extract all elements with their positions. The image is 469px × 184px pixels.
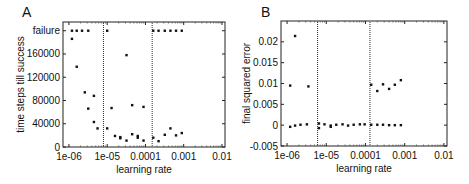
data-point	[289, 126, 291, 128]
data-point	[152, 136, 154, 138]
data-point	[394, 84, 396, 86]
data-point	[294, 35, 296, 37]
data-point	[110, 107, 112, 109]
y-tick-label: 80000	[32, 95, 60, 106]
data-point	[359, 123, 361, 125]
data-point	[93, 95, 95, 97]
data-point	[388, 88, 390, 90]
data-point	[131, 133, 133, 135]
data-point	[299, 124, 301, 126]
data-point	[400, 79, 402, 81]
data-point	[164, 134, 166, 136]
x-tick-label: 1e-05	[94, 151, 120, 162]
data-point	[307, 85, 309, 87]
plot-frame	[63, 22, 225, 147]
data-point	[131, 104, 133, 106]
data-point	[306, 123, 308, 125]
y-tick-label: 0.01	[259, 78, 279, 89]
data-point	[114, 135, 116, 137]
data-point	[157, 30, 159, 32]
data-point	[93, 121, 95, 123]
data-point	[84, 91, 86, 93]
y-tick-label: failure	[33, 25, 61, 36]
x-tick-label: 1e-06	[56, 151, 82, 162]
data-point	[318, 122, 320, 124]
data-point	[400, 124, 402, 126]
data-point	[347, 124, 349, 126]
data-point	[318, 127, 320, 129]
data-point	[341, 123, 343, 125]
y-tick-label: 160000	[27, 48, 61, 59]
data-point	[181, 132, 183, 134]
data-point	[323, 123, 325, 125]
data-point	[294, 124, 296, 126]
x-axis-label: learning rate	[336, 163, 392, 174]
data-point	[71, 38, 73, 40]
y-tick-label: 0	[54, 142, 60, 153]
x-tick-label: 0.0001	[130, 151, 161, 162]
panel-b: B1e-061e-050.00010.0010.01-0.00500.0050.…	[235, 0, 469, 184]
data-point	[382, 83, 384, 85]
y-tick-label: 0.005	[253, 99, 278, 110]
y-axis-label: time steps till success	[15, 36, 26, 133]
chart-b: B1e-061e-050.00010.0010.01-0.00500.0050.…	[235, 0, 469, 184]
data-point	[142, 139, 144, 141]
data-point	[376, 124, 378, 126]
y-tick-label: 0.015	[253, 57, 278, 68]
y-tick-label: -0.005	[250, 141, 279, 152]
panel-label: B	[261, 4, 270, 20]
data-point	[87, 107, 89, 109]
data-point	[388, 124, 390, 126]
data-point	[164, 30, 166, 32]
plot-frame	[281, 21, 447, 146]
data-point	[152, 30, 154, 32]
data-point	[76, 30, 78, 32]
data-point	[394, 124, 396, 126]
data-point	[363, 123, 365, 125]
data-point	[87, 30, 89, 32]
x-tick-label: 1e-06	[274, 150, 300, 161]
x-tick-label: 0.001	[392, 150, 417, 161]
data-point	[106, 127, 108, 129]
x-tick-label: 1e-05	[313, 150, 339, 161]
data-point	[76, 66, 78, 68]
data-point	[119, 137, 121, 139]
data-point	[335, 124, 337, 126]
data-point	[142, 106, 144, 108]
data-point	[352, 124, 354, 126]
data-point	[370, 124, 372, 126]
chart-a: A1e-061e-050.00010.0010.0104000080000120…	[0, 0, 235, 184]
y-tick-label: 40000	[32, 118, 60, 129]
x-tick-label: 0.01	[212, 151, 232, 162]
data-point	[330, 126, 332, 128]
panel-label: A	[22, 4, 32, 20]
data-point	[157, 140, 159, 142]
data-point	[81, 30, 83, 32]
data-point	[125, 54, 127, 56]
x-tick-label: 0.0001	[350, 150, 381, 161]
data-point	[137, 136, 139, 138]
data-point	[382, 124, 384, 126]
data-point	[125, 139, 127, 141]
data-point	[181, 30, 183, 32]
y-tick-label: 0	[272, 120, 278, 131]
data-point	[169, 127, 171, 129]
y-tick-label: 120000	[27, 72, 61, 83]
x-tick-label: 0.001	[171, 151, 196, 162]
panel-a: A1e-061e-050.00010.0010.0104000080000120…	[0, 0, 235, 184]
data-point	[106, 30, 108, 32]
x-tick-label: 0.01	[434, 150, 454, 161]
data-point	[71, 30, 73, 32]
x-axis-label: learning rate	[116, 164, 172, 175]
data-point	[376, 90, 378, 92]
data-point	[370, 84, 372, 86]
data-point	[289, 84, 291, 86]
data-point	[175, 134, 177, 136]
y-axis-label: final squared error	[241, 42, 252, 124]
data-point	[169, 30, 171, 32]
data-point	[96, 127, 98, 129]
data-point	[175, 30, 177, 32]
y-tick-label: 0.02	[259, 36, 279, 47]
